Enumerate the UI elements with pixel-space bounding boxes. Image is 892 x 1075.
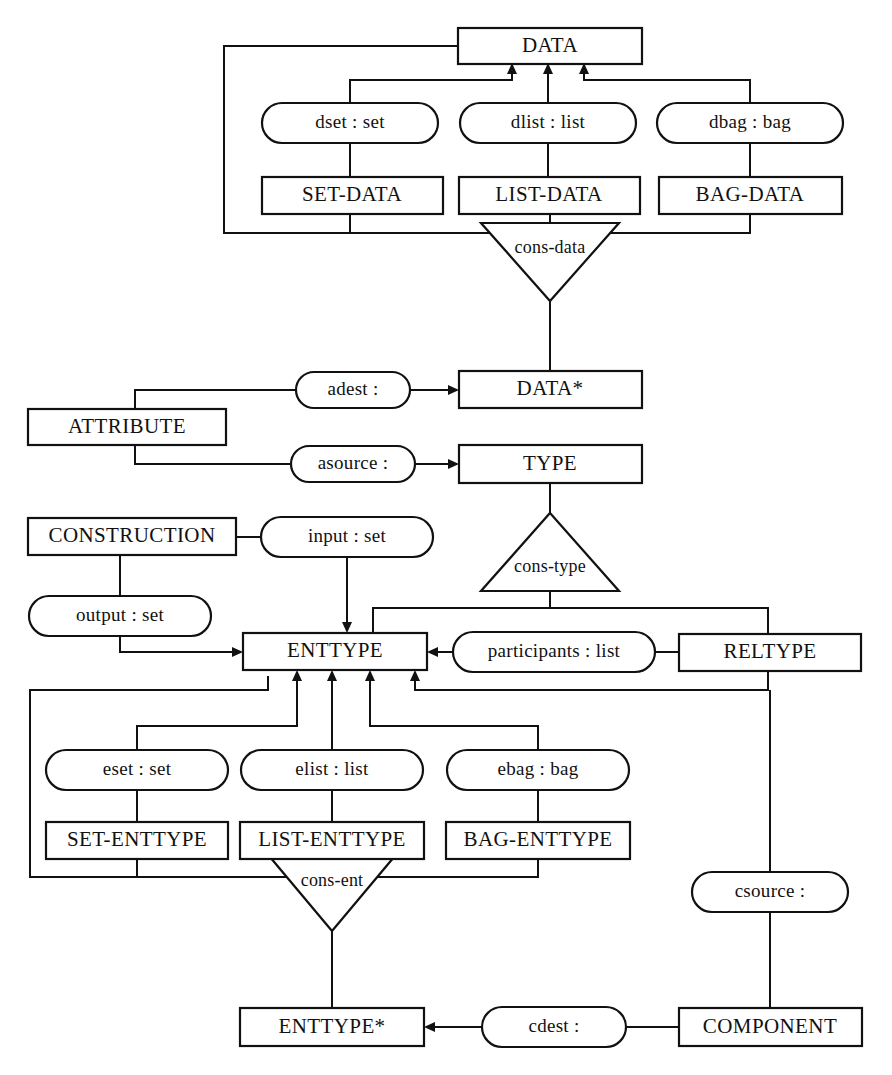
arrow-cdest-enttypestar <box>424 1022 435 1032</box>
entity-data[interactable]: DATA <box>458 28 642 64</box>
relationship-ebag[interactable]: ebag : bag <box>447 750 629 790</box>
entity-bag-enttype-label: BAG-ENTTYPE <box>463 827 612 851</box>
relationship-input[interactable]: input : set <box>261 517 433 557</box>
edge-output-to-enttype <box>120 636 236 652</box>
edge-attribute-to-adest <box>135 390 296 409</box>
edge-dset-to-data <box>350 68 512 103</box>
entity-set-enttype-label: SET-ENTTYPE <box>67 827 207 851</box>
relationship-asource[interactable]: asource : <box>291 446 415 482</box>
relationship-elist[interactable]: elist : list <box>241 750 423 790</box>
entity-list-data-label: LIST-DATA <box>495 182 603 206</box>
entity-type[interactable]: TYPE <box>459 445 642 483</box>
edge-ebag-to-enttype <box>370 676 538 750</box>
relationship-participants-label: participants : list <box>488 640 621 661</box>
relationship-eset-label: eset : set <box>103 758 172 779</box>
edge-eset-to-enttype <box>137 676 297 750</box>
relationship-output-label: output : set <box>76 604 164 625</box>
entity-attribute-label: ATTRIBUTE <box>68 414 186 438</box>
entity-data-star[interactable]: DATA* <box>459 371 642 408</box>
relationship-ebag-label: ebag : bag <box>497 758 578 779</box>
entity-data-star-label: DATA* <box>517 376 584 400</box>
arrow-eset-enttype <box>292 670 302 681</box>
relationship-dlist[interactable]: dlist : list <box>460 103 636 143</box>
er-diagram-canvas: cons-data cons-type cons-ent dset : set … <box>0 0 892 1075</box>
relationship-asource-label: asource : <box>318 452 389 473</box>
arrow-participants-enttype <box>427 647 438 657</box>
relationship-cdest-label: cdest : <box>528 1015 579 1036</box>
entity-data-label: DATA <box>522 33 578 57</box>
constructor-cons-type-label: cons-type <box>514 556 586 576</box>
entity-list-data[interactable]: LIST-DATA <box>459 177 640 214</box>
entity-enttype-star[interactable]: ENTTYPE* <box>240 1008 424 1046</box>
relationship-adest[interactable]: adest : <box>296 372 410 408</box>
entity-bag-data[interactable]: BAG-DATA <box>659 177 842 214</box>
arrow-asource-type <box>448 459 459 469</box>
constructor-cons-data-label: cons-data <box>515 237 586 257</box>
edge-reltype-down-to-csource <box>415 671 768 690</box>
arrow-ebag-enttype <box>365 670 375 681</box>
relationship-dbag[interactable]: dbag : bag <box>657 103 843 143</box>
entity-component-label: COMPONENT <box>703 1014 837 1038</box>
arrow-adest-datastar <box>448 385 459 395</box>
entity-bag-enttype[interactable]: BAG-ENTTYPE <box>446 822 630 859</box>
entity-set-enttype[interactable]: SET-ENTTYPE <box>46 822 228 859</box>
relationship-input-label: input : set <box>308 525 387 546</box>
entity-construction-label: CONSTRUCTION <box>49 523 216 547</box>
er-diagram: cons-data cons-type cons-ent dset : set … <box>0 0 892 1075</box>
entity-enttype-star-label: ENTTYPE* <box>278 1014 385 1038</box>
relationship-csource-label: csource : <box>735 880 806 901</box>
relationship-output[interactable]: output : set <box>29 596 211 636</box>
relationship-dset[interactable]: dset : set <box>262 103 438 143</box>
entity-list-enttype[interactable]: LIST-ENTTYPE <box>240 822 424 859</box>
entity-set-data-label: SET-DATA <box>302 182 402 206</box>
relationship-adest-label: adest : <box>327 378 378 399</box>
edge-dbag-to-data <box>584 68 750 103</box>
edge-attribute-to-asource <box>135 445 291 464</box>
relationship-participants[interactable]: participants : list <box>453 632 655 672</box>
entity-list-enttype-label: LIST-ENTTYPE <box>258 827 406 851</box>
arrow-output-enttype <box>232 647 243 657</box>
entity-attribute[interactable]: ATTRIBUTE <box>28 409 226 445</box>
entity-reltype-label: RELTYPE <box>723 639 816 663</box>
arrow-elist-enttype <box>327 670 337 681</box>
entity-type-label: TYPE <box>523 451 577 475</box>
relationship-elist-label: elist : list <box>295 758 369 779</box>
entity-enttype-label: ENTTYPE <box>287 638 383 662</box>
entity-reltype[interactable]: RELTYPE <box>679 634 861 671</box>
relationship-csource[interactable]: csource : <box>692 872 848 912</box>
relationship-dset-label: dset : set <box>315 111 385 132</box>
entity-component[interactable]: COMPONENT <box>679 1008 862 1046</box>
relationship-cdest[interactable]: cdest : <box>482 1007 626 1047</box>
entity-construction[interactable]: CONSTRUCTION <box>28 518 236 555</box>
arrow-reltype-enttype <box>410 670 420 681</box>
arrow-input-enttype <box>342 622 352 633</box>
entity-set-data[interactable]: SET-DATA <box>262 177 443 214</box>
edge-constype-to-reltype <box>550 608 768 634</box>
relationship-dbag-label: dbag : bag <box>709 111 791 132</box>
entity-bag-data-label: BAG-DATA <box>696 182 805 206</box>
relationship-dlist-label: dlist : list <box>511 111 586 132</box>
constructor-cons-data[interactable] <box>481 223 619 301</box>
constructor-cons-type[interactable] <box>481 513 619 591</box>
relationship-eset[interactable]: eset : set <box>46 750 228 790</box>
constructor-cons-ent[interactable] <box>270 857 394 931</box>
relationship-layer: dset : set dlist : list dbag : bag adest… <box>29 103 848 1047</box>
constructor-cons-ent-label: cons-ent <box>301 870 364 890</box>
entity-enttype[interactable]: ENTTYPE <box>243 633 427 670</box>
